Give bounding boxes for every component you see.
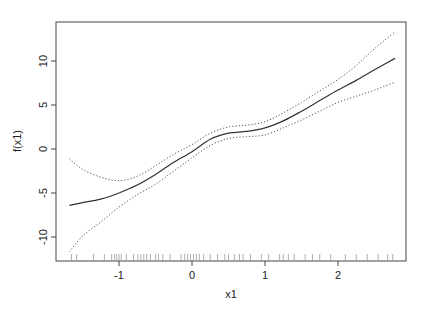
x-tick-label: 0 <box>189 269 195 281</box>
y-axis-label: f(x1) <box>11 130 23 152</box>
y-axis: -10-50510 <box>37 55 56 245</box>
gam-smooth-plot: -1012 -10-50510 x1 f(x1) <box>0 0 429 314</box>
plot-box <box>56 22 406 261</box>
x-axis: -1012 <box>114 261 341 281</box>
lower-band-line <box>69 82 395 252</box>
x-axis-label: x1 <box>225 288 237 300</box>
y-tick-label: 5 <box>37 102 49 108</box>
y-tick-label: -10 <box>37 229 49 245</box>
fit-line <box>69 58 395 205</box>
y-tick-label: 0 <box>37 146 49 152</box>
rug-marks <box>72 254 393 261</box>
y-tick-label: -5 <box>37 188 49 198</box>
x-tick-label: -1 <box>114 269 124 281</box>
y-tick-label: 10 <box>37 55 49 67</box>
x-tick-label: 1 <box>262 269 268 281</box>
plot-lines <box>69 32 395 252</box>
x-tick-label: 2 <box>335 269 341 281</box>
upper-band-line <box>69 32 395 181</box>
